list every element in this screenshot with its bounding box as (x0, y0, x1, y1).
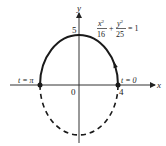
point-t-pi (38, 83, 43, 88)
x-axis-label: x (156, 80, 161, 90)
y-intercept-label: 5 (72, 25, 77, 35)
ellipse-equation: x2 16 + y2 25 = 1 (97, 19, 139, 39)
point-label-t-pi: t = π (18, 76, 35, 85)
eq-term1-denominator: 16 (97, 30, 105, 39)
eq-term1-numerator: x2 (97, 19, 105, 28)
point-label-t-0: t = 0 (121, 76, 137, 85)
eq-equals-one: = 1 (128, 24, 139, 33)
eq-term2-denominator: 25 (116, 30, 124, 39)
eq-term2-numerator: y2 (116, 19, 124, 28)
ellipse-diagram: y x 0 5 4 t = π t = 0 x2 16 + y2 25 = 1 (0, 0, 166, 146)
origin-label: 0 (71, 87, 76, 97)
direction-arrow-icon (114, 62, 118, 69)
y-axis-label: y (76, 3, 81, 13)
eq-plus: + (109, 24, 114, 33)
x-intercept-label: 4 (119, 87, 124, 97)
